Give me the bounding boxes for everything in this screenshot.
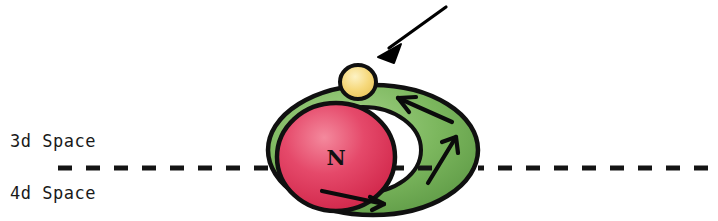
nucleus-label: N: [326, 145, 345, 170]
pointer-arrow: [378, 7, 446, 63]
diagram-canvas: 3d Space 4d Space: [0, 0, 718, 221]
diagram-illustration: N: [0, 0, 718, 221]
yellow-sphere: [340, 65, 376, 99]
